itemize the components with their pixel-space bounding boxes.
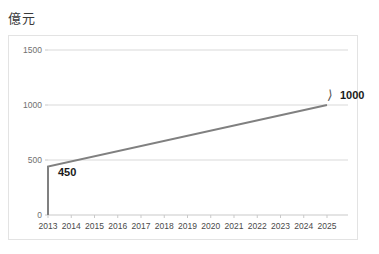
xtick-label-2020: 2020 xyxy=(201,221,220,231)
xtick-label-2015: 2015 xyxy=(85,221,104,231)
xtick-label-2025: 2025 xyxy=(318,221,337,231)
data-label-start: 450 xyxy=(58,166,76,178)
xtick-label-2013: 2013 xyxy=(39,221,58,231)
xtick-label-2019: 2019 xyxy=(178,221,197,231)
ytick-label-0: 0 xyxy=(14,210,42,220)
xtick-label-2016: 2016 xyxy=(108,221,127,231)
ytick-label-1000: 1000 xyxy=(14,100,42,110)
xtick-label-2018: 2018 xyxy=(155,221,174,231)
xtick-label-2021: 2021 xyxy=(225,221,244,231)
chart-canvas xyxy=(0,0,379,254)
xtick-label-2023: 2023 xyxy=(271,221,290,231)
chart-screenshot: 億元 xyxy=(0,0,379,254)
xtick-label-2024: 2024 xyxy=(294,221,313,231)
xtick-label-2017: 2017 xyxy=(132,221,151,231)
data-label-end: 1000 xyxy=(340,89,364,101)
ytick-label-500: 500 xyxy=(14,155,42,165)
xtick-label-2014: 2014 xyxy=(62,221,81,231)
xtick-label-2022: 2022 xyxy=(248,221,267,231)
ytick-label-1500: 1500 xyxy=(14,45,42,55)
